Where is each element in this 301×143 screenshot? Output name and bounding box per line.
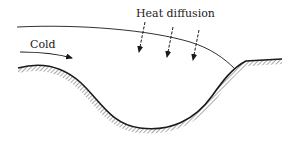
heat-diffusion-label: Heat diffusion — [136, 7, 215, 20]
heat-arrow-2 — [167, 27, 173, 57]
cold-air-pooling-diagram: Cold Heat diffusion — [0, 0, 301, 143]
cold-label: Cold — [30, 38, 56, 51]
ground-hatching — [18, 59, 282, 133]
heat-diffusion-arrows — [139, 22, 199, 60]
cold-flow-arrow — [20, 52, 72, 58]
heat-arrow-1 — [139, 22, 145, 52]
